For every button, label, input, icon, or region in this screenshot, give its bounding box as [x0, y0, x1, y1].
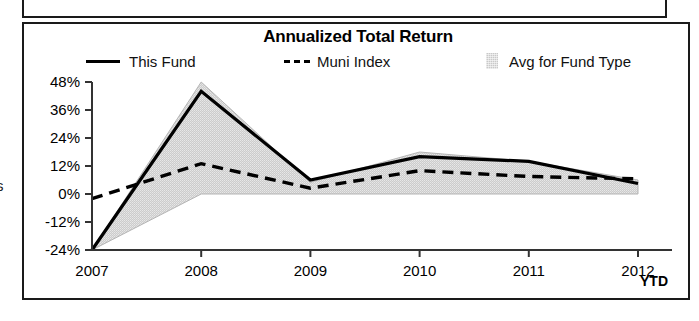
y-tick-label: 36% [24, 102, 80, 117]
plot-svg [24, 24, 692, 302]
x-tick-label: 2011 [494, 263, 564, 278]
x-tick-label: 2010 [385, 263, 455, 278]
screenshot-root: s Annualized Total Return This Fund Muni… [0, 0, 699, 321]
y-tick-label: 12% [24, 158, 80, 173]
y-tick-label: 0% [24, 186, 80, 201]
y-tick-label: -12% [24, 214, 80, 229]
y-tick-label: 24% [24, 130, 80, 145]
x-tick-label: 2007 [57, 263, 127, 278]
y-tick-label: 48% [24, 74, 80, 89]
y-tick-label: -24% [24, 242, 80, 257]
series-layer [92, 82, 638, 250]
adjacent-panel-fragment [22, 0, 667, 18]
x-axis-ytd-label: YTD [640, 274, 668, 288]
x-tick-label: 2009 [275, 263, 345, 278]
x-tick-label: 2008 [166, 263, 236, 278]
plot-area: 48%36%24%12%0%-12%-24% 20072008200920102… [24, 24, 692, 302]
left-edge-text-fragment: s [0, 178, 4, 193]
annualized-total-return-panel: Annualized Total Return This Fund Muni I… [22, 22, 690, 300]
